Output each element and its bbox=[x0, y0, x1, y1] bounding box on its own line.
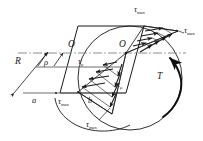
tau-rho-lower-label: τρ bbox=[117, 80, 122, 89]
tau-max-left-bottom-label: τmax bbox=[58, 97, 69, 106]
figure-canvas bbox=[0, 0, 203, 141]
point-a-label: a bbox=[32, 96, 36, 105]
torque-direction-arc bbox=[163, 58, 181, 117]
tau-max-bottom-label: τmax bbox=[86, 120, 97, 129]
origin-right-label: O bbox=[119, 40, 126, 50]
torsion-shear-stress-figure: τmax τmax O O R ρ τρ τρ a τmax b τmax T bbox=[0, 0, 203, 141]
cut-plane-face bbox=[60, 26, 144, 93]
origin-left-label: O bbox=[68, 40, 75, 50]
torque-label: T bbox=[157, 72, 162, 82]
tau-max-right-label: τmax bbox=[184, 26, 195, 35]
tau-rho-upper-label: τρ bbox=[78, 57, 83, 66]
point-b-label: b bbox=[88, 96, 92, 105]
tau-max-top-label: τmax bbox=[134, 5, 145, 14]
radius-label: R bbox=[15, 57, 21, 67]
rho-label: ρ bbox=[44, 58, 48, 67]
bottom-tau-leader bbox=[99, 108, 110, 120]
upper-shear-stress-triangle bbox=[126, 26, 178, 53]
